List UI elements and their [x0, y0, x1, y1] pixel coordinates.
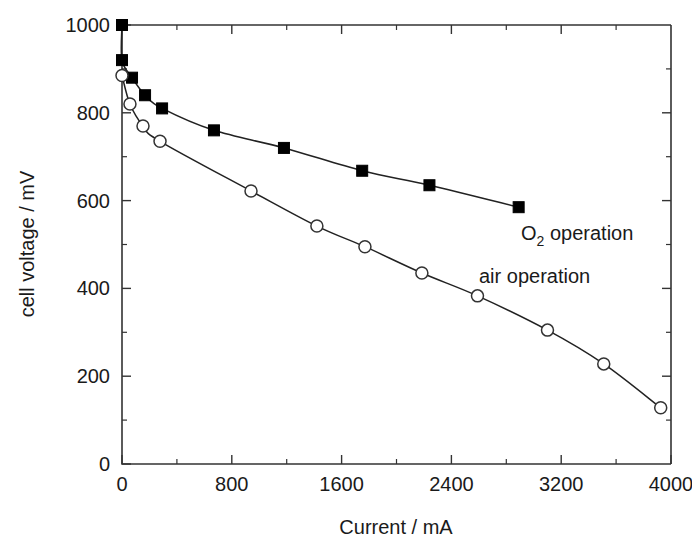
- y-tick-label: 0: [99, 453, 110, 475]
- y-tick-label: 1000: [66, 14, 111, 36]
- data-point-marker: [471, 290, 483, 302]
- data-point-marker: [359, 241, 371, 253]
- y-tick-label: 800: [77, 102, 110, 124]
- data-point-marker: [245, 185, 257, 197]
- x-tick-label: 0: [116, 473, 127, 495]
- data-point-marker: [124, 98, 136, 110]
- series-label-air: air operation: [479, 265, 590, 287]
- o2-label-subscript: 2: [537, 233, 545, 249]
- data-point-marker: [513, 202, 524, 213]
- data-point-marker: [154, 135, 166, 147]
- y-axis-title: cell voltage / mV: [16, 170, 38, 317]
- data-point-marker: [357, 165, 368, 176]
- data-series-layer: [116, 20, 667, 414]
- x-axis-title: Current / mA: [339, 516, 453, 538]
- x-tick-label: 3200: [539, 473, 584, 495]
- y-axis-tick-labels: 02004006008001000: [66, 14, 111, 475]
- data-point-marker: [117, 55, 128, 66]
- data-point-marker: [598, 358, 610, 370]
- chart-figure: 08001600240032004000 02004006008001000 C…: [0, 0, 692, 550]
- data-point-marker: [278, 142, 289, 153]
- axis-frame: [122, 25, 671, 464]
- y-axis-right-ticks: [662, 69, 671, 420]
- y-tick-label: 200: [77, 365, 110, 387]
- x-tick-label: 800: [215, 473, 248, 495]
- data-point-marker: [140, 90, 151, 101]
- data-point-marker: [157, 103, 168, 114]
- data-point-marker: [655, 402, 667, 414]
- x-tick-label: 4000: [649, 473, 692, 495]
- o2-label-suffix: operation: [544, 222, 633, 244]
- data-point-marker: [116, 69, 128, 81]
- series-line-o2: [121, 25, 518, 207]
- x-tick-label: 1600: [319, 473, 364, 495]
- o2-label-prefix: O: [521, 222, 537, 244]
- data-point-marker: [416, 267, 428, 279]
- data-point-marker: [424, 180, 435, 191]
- series-label-o2: O2 operation: [521, 222, 633, 249]
- data-point-marker: [117, 20, 128, 31]
- x-tick-label: 2400: [429, 473, 474, 495]
- data-point-marker: [208, 125, 219, 136]
- series-o2: [117, 20, 525, 213]
- data-point-marker: [137, 120, 149, 132]
- y-tick-label: 600: [77, 190, 110, 212]
- cell-voltage-vs-current-chart: 08001600240032004000 02004006008001000 C…: [0, 0, 692, 550]
- x-axis-top-ticks: [177, 25, 616, 34]
- x-axis-tick-labels: 08001600240032004000: [116, 473, 692, 495]
- data-point-marker: [311, 220, 323, 232]
- y-tick-label: 400: [77, 277, 110, 299]
- data-point-marker: [541, 324, 553, 336]
